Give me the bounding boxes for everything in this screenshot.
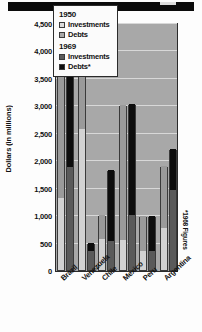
y-tick-label: 2,000 <box>0 157 52 166</box>
y-tick-label: 4,000 <box>0 47 52 56</box>
chart-footnote: *1968 Figures <box>182 210 189 250</box>
y-tick-label: 1,500 <box>0 184 52 193</box>
bar <box>128 105 136 271</box>
chart-legend: 1950InvestmentsDebts1969InvestmentsDebts… <box>53 5 118 77</box>
bar-segment-inv50 <box>58 198 64 270</box>
bar-segment-debt50 <box>120 105 126 241</box>
bar-segment-inv69 <box>170 190 176 270</box>
bar-segment-debt50 <box>161 166 167 227</box>
bar-segment-debt50 <box>99 215 105 239</box>
bar-segment-debt69 <box>108 170 114 242</box>
legend-label: Investments <box>68 52 110 61</box>
bar-segment-debt69 <box>129 104 135 215</box>
bar <box>148 217 156 271</box>
legend-item: Investments <box>59 52 113 61</box>
legend-label: Debts <box>68 30 88 39</box>
bar <box>169 150 177 271</box>
bar <box>57 70 65 271</box>
bar <box>160 167 168 271</box>
bar-segment-debt50 <box>58 69 64 197</box>
legend-swatch-inv50 <box>59 22 65 28</box>
y-tick-label: 500 <box>0 239 52 248</box>
bar-segment-debt69 <box>170 149 176 191</box>
bar-segment-inv50 <box>79 129 85 270</box>
bar-segment-inv50 <box>120 240 126 270</box>
banner-notch <box>160 2 176 5</box>
bar-segment-inv69 <box>129 215 135 270</box>
legend-swatch-debt69 <box>59 64 65 70</box>
y-tick-label: 3,000 <box>0 102 52 111</box>
legend-swatch-debt50 <box>59 32 65 38</box>
y-tick-label: 0 <box>0 267 52 276</box>
bar <box>119 106 127 271</box>
chart-page: Dollars (in millions) 05001,0001,5002,00… <box>0 0 202 332</box>
legend-year-1950: 1950 <box>59 10 113 19</box>
bar-segment-debt69 <box>149 216 155 252</box>
y-tick-label: 1,000 <box>0 212 52 221</box>
bar-segment-inv69 <box>67 167 73 270</box>
legend-label: Debts* <box>68 62 91 71</box>
legend-swatch-inv69 <box>59 54 65 60</box>
legend-label: Investments <box>68 20 110 29</box>
legend-item: Debts* <box>59 62 113 71</box>
bar-segment-debt50 <box>140 216 146 251</box>
y-tick-label: 4,500 <box>0 20 52 29</box>
legend-item: Investments <box>59 20 113 29</box>
bar-segment-inv50 <box>161 228 167 270</box>
legend-year-1969: 1969 <box>59 42 113 51</box>
bar-segment-debt69 <box>88 243 94 251</box>
y-tick-label: 3,500 <box>0 74 52 83</box>
y-tick-label: 2,500 <box>0 129 52 138</box>
legend-item: Debts <box>59 30 113 39</box>
